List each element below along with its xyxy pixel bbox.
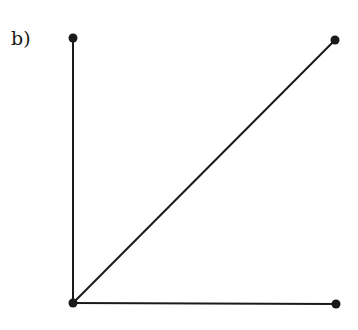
top-left-point — [69, 34, 78, 43]
origin-point — [69, 299, 78, 308]
diagonal-segment — [73, 40, 335, 303]
line-diagram — [0, 0, 358, 330]
horizontal-segment — [73, 303, 336, 304]
top-right-point — [331, 36, 340, 45]
bottom-right-point — [332, 300, 341, 309]
